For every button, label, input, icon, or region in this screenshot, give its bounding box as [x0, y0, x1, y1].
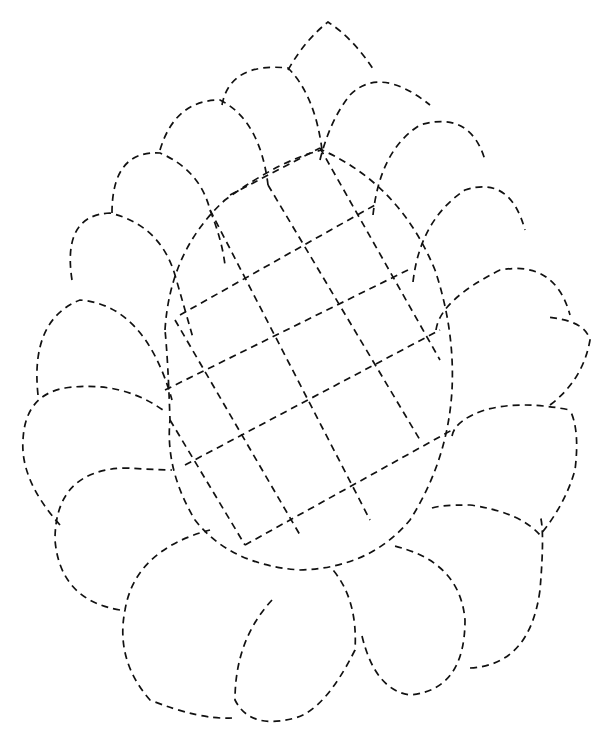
lobe-bottom-center	[235, 570, 355, 721]
lattice-line-3	[165, 268, 412, 390]
lattice-line-9	[175, 320, 300, 535]
lobe-right-4	[436, 268, 570, 330]
lobe-top-left-1	[222, 67, 322, 150]
lobe-right-5	[452, 405, 570, 436]
top-tip	[288, 22, 375, 72]
lobe-bottom-left	[123, 530, 232, 718]
central-oval	[165, 150, 452, 570]
lobe-left-7	[55, 468, 172, 610]
lattice-line-10	[170, 420, 245, 545]
lattice-line-5	[245, 430, 452, 545]
lobe-right-3	[413, 187, 525, 282]
lattice-line-8	[210, 210, 370, 520]
lobe-right-6	[432, 410, 577, 535]
lobe-left-4	[70, 213, 193, 338]
lattice-line-2	[180, 205, 375, 315]
lattice-line-1	[230, 148, 320, 195]
quilt-pattern-drawing	[0, 0, 604, 737]
lobe-bottom-right	[362, 545, 465, 695]
lattice-line-4	[185, 330, 440, 465]
lattice-line-6	[320, 148, 440, 360]
lobe-top-right-1	[320, 82, 430, 160]
lattice-line-7	[268, 185, 420, 440]
lobe-top-left-2	[160, 100, 268, 185]
lobe-left-6	[23, 386, 163, 525]
lobe-right-2	[373, 122, 485, 215]
lobe-right-7	[470, 515, 543, 668]
lobe-right-5b	[545, 317, 590, 405]
lobe-left-5	[37, 300, 172, 400]
lobe-left-3	[112, 153, 225, 265]
pattern-svg	[0, 0, 604, 737]
